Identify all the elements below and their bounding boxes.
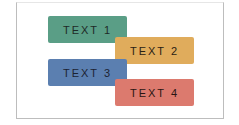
text-box-4-label: TEXT 4 [130,87,179,99]
text-box-1-label: TEXT 1 [63,24,112,36]
text-box-4: TEXT 4 [115,79,194,106]
text-box-2-label: TEXT 2 [130,45,179,57]
text-box-3-label: TEXT 3 [63,67,112,79]
